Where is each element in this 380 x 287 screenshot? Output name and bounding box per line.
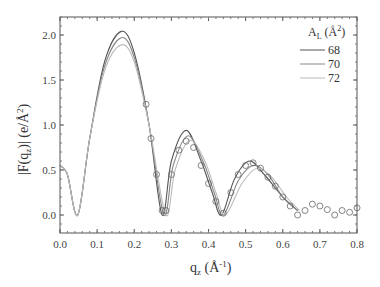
x-tick-label: 0.5: [239, 238, 253, 250]
y-tick-label: 1.5: [42, 74, 56, 86]
series-line-72: [60, 45, 300, 216]
x-tick-label: 0.2: [127, 238, 141, 250]
data-point: [332, 212, 338, 218]
y-tick-label: 0.5: [42, 164, 56, 176]
data-point: [309, 201, 315, 207]
chart: 0.00.10.20.30.40.50.60.70.80.00.51.01.52…: [0, 0, 380, 287]
data-point: [317, 203, 323, 209]
plot-frame: [60, 17, 357, 233]
y-axis-title: |F(qz)| (e/Å2): [15, 103, 33, 175]
x-tick-label: 0.1: [90, 238, 104, 250]
x-tick-label: 0.0: [53, 238, 67, 250]
data-point: [295, 212, 301, 218]
y-tick-label: 1.0: [42, 119, 56, 131]
x-tick-label: 0.4: [202, 238, 216, 250]
data-point: [302, 208, 308, 214]
y-tick-label: 0.0: [42, 209, 56, 221]
x-axis-title: qz (Å-1): [190, 259, 232, 277]
data-point: [163, 208, 169, 214]
y-tick-label: 2.0: [42, 29, 56, 41]
x-tick-label: 0.8: [350, 238, 364, 250]
legend-title: AL (Å2): [308, 24, 345, 41]
x-tick-label: 0.3: [165, 238, 179, 250]
data-point: [339, 208, 345, 214]
legend-label-72: 72: [328, 71, 340, 85]
data-point: [324, 207, 330, 213]
legend-label-70: 70: [328, 57, 340, 71]
x-tick-label: 0.7: [313, 238, 327, 250]
legend-label-68: 68: [328, 43, 340, 57]
legend: AL (Å2) 68 70 72: [300, 24, 345, 85]
plot-area: [60, 31, 360, 218]
series-line-70: [60, 37, 298, 215]
data-point: [347, 209, 353, 215]
x-tick-label: 0.6: [276, 238, 290, 250]
series-line-68: [60, 31, 298, 215]
